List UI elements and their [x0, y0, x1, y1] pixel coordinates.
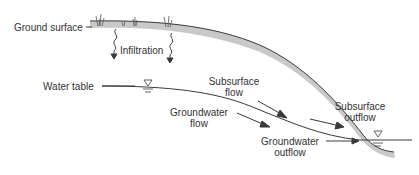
water-level-icon-outlet	[373, 131, 383, 146]
subsurface-outflow-label: Subsurface outflow	[327, 101, 393, 123]
subsurface-flow-label: Subsurface flow	[204, 76, 264, 98]
ground-surface-label: Ground surface	[14, 22, 83, 33]
infiltration-label: Infiltration	[120, 45, 163, 56]
groundwater-flow-label: Groundwater flow	[164, 107, 234, 129]
water-level-icon	[143, 80, 153, 92]
groundwater-outflow-label: Groundwater outflow	[255, 136, 325, 158]
water-table-label: Water table	[43, 81, 94, 92]
